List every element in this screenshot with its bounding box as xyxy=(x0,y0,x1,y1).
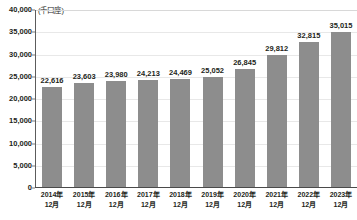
x-axis-tick-month: 12月 xyxy=(293,200,325,210)
bar-value-label: 24,213 xyxy=(137,70,160,78)
x-axis-tick-month: 12月 xyxy=(229,200,261,210)
bar-value-label: 35,015 xyxy=(329,22,352,30)
bar-slot: 35,015 xyxy=(325,10,357,188)
x-axis-tick-year: 2020年 xyxy=(229,190,261,200)
x-axis-tick-month: 12月 xyxy=(36,200,68,210)
bar-slot: 23,603 xyxy=(68,10,100,188)
x-axis-tick-year: 2023年 xyxy=(325,190,357,200)
x-axis-tick-year: 2018年 xyxy=(164,190,196,200)
x-axis-tick-month: 12月 xyxy=(325,200,357,210)
x-axis-tick-year: 2021年 xyxy=(261,190,293,200)
y-axis-tick-label: 20,000 xyxy=(9,95,32,103)
x-axis-tick-year: 2019年 xyxy=(197,190,229,200)
x-axis-tick-year: 2015年 xyxy=(68,190,100,200)
y-axis-tick-label: 5,000 xyxy=(13,162,32,170)
x-axis-tick-month: 12月 xyxy=(132,200,164,210)
bar-slot: 26,845 xyxy=(229,10,261,188)
bar[interactable] xyxy=(74,83,94,188)
x-axis-tick-label: 2017年12月 xyxy=(132,190,164,209)
x-axis-tick-label: 2015年12月 xyxy=(68,190,100,209)
bar-slot: 25,052 xyxy=(197,10,229,188)
y-axis-tick-label: 15,000 xyxy=(9,117,32,125)
x-axis-tick-label: 2020年12月 xyxy=(229,190,261,209)
bar[interactable] xyxy=(235,69,255,188)
bar[interactable] xyxy=(203,77,223,188)
y-axis-tick-label: 35,000 xyxy=(9,28,32,36)
y-axis-tick-label: 40,000 xyxy=(9,6,32,14)
x-axis-tick-label: 2021年12月 xyxy=(261,190,293,209)
bar-value-label: 29,812 xyxy=(265,45,288,53)
x-axis-tick-label: 2022年12月 xyxy=(293,190,325,209)
bar[interactable] xyxy=(138,80,158,188)
bar-value-label: 24,469 xyxy=(169,69,192,77)
x-axis-tick-year: 2022年 xyxy=(293,190,325,200)
y-axis: 40,00035,00030,00025,00020,00015,00010,0… xyxy=(0,0,35,220)
bar-value-label: 32,815 xyxy=(297,32,320,40)
bar-series: 22,61623,60323,98024,21324,46925,05226,8… xyxy=(36,10,357,188)
bar-slot: 23,980 xyxy=(100,10,132,188)
bar-slot: 22,616 xyxy=(36,10,68,188)
bar[interactable] xyxy=(170,79,190,188)
x-axis-tick-year: 2017年 xyxy=(132,190,164,200)
x-axis-tick-label: 2018年12月 xyxy=(164,190,196,209)
bar-value-label: 26,845 xyxy=(233,59,256,67)
bar[interactable] xyxy=(267,55,287,188)
x-axis-tick-label: 2016年12月 xyxy=(100,190,132,209)
x-axis-tick-month: 12月 xyxy=(68,200,100,210)
x-axis-tick-month: 12月 xyxy=(164,200,196,210)
bar-value-label: 23,603 xyxy=(73,73,96,81)
bar-slot: 24,213 xyxy=(132,10,164,188)
y-axis-tick-label: 25,000 xyxy=(9,73,32,81)
bar[interactable] xyxy=(331,32,351,188)
x-axis-tick-label: 2023年12月 xyxy=(325,190,357,209)
x-axis-tick-month: 12月 xyxy=(197,200,229,210)
x-axis-tick-month: 12月 xyxy=(261,200,293,210)
bar-slot: 29,812 xyxy=(261,10,293,188)
bar-slot: 24,469 xyxy=(164,10,196,188)
bar-chart: (千口座) 40,00035,00030,00025,00020,00015,0… xyxy=(0,0,357,220)
plot-area: 22,61623,60323,98024,21324,46925,05226,8… xyxy=(36,10,357,188)
x-axis-baseline xyxy=(35,187,357,188)
x-axis-tick-year: 2014年 xyxy=(36,190,68,200)
x-axis-tick-year: 2016年 xyxy=(100,190,132,200)
x-axis-tick-label: 2014年12月 xyxy=(36,190,68,209)
bar-value-label: 22,616 xyxy=(41,77,64,85)
y-axis-tick-label: 10,000 xyxy=(9,140,32,148)
x-axis-labels: 2014年12月2015年12月2016年12月2017年12月2018年12月… xyxy=(36,190,357,218)
bar[interactable] xyxy=(106,81,126,188)
x-axis-tick-month: 12月 xyxy=(100,200,132,210)
bar[interactable] xyxy=(299,42,319,188)
x-axis-tick-label: 2019年12月 xyxy=(197,190,229,209)
bar[interactable] xyxy=(42,87,62,188)
bar-value-label: 23,980 xyxy=(105,71,128,79)
y-axis-tick-label: 30,000 xyxy=(9,51,32,59)
bar-value-label: 25,052 xyxy=(201,67,224,75)
bar-slot: 32,815 xyxy=(293,10,325,188)
